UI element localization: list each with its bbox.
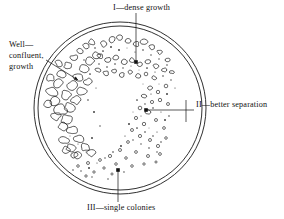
speckle: [162, 75, 164, 77]
colony: [144, 72, 148, 76]
colony: [167, 103, 170, 106]
colony: [128, 70, 132, 74]
colony: [54, 79, 63, 88]
speckle: [159, 84, 160, 85]
label-well-confluent-growth: Well— confluent, growth: [9, 39, 73, 72]
speckle: [150, 54, 151, 55]
speckle: [146, 67, 148, 69]
colony: [119, 73, 124, 78]
colony: [67, 81, 78, 91]
colony: [93, 52, 101, 59]
speckle: [118, 49, 120, 51]
speckle: [83, 59, 84, 60]
colony: [109, 37, 115, 43]
colony: [112, 69, 117, 73]
speckle: [80, 170, 81, 171]
speckle: [158, 58, 159, 59]
colony: [152, 76, 157, 80]
colony: [157, 50, 162, 54]
speckle: [112, 151, 114, 153]
speckle: [95, 87, 96, 88]
colony: [148, 86, 153, 90]
colony: [125, 157, 128, 160]
speckle: [140, 115, 141, 116]
colony: [165, 58, 170, 61]
colony: [71, 96, 81, 105]
colony: [153, 64, 159, 69]
label-well-line-3: growth: [9, 61, 73, 72]
colony: [64, 103, 75, 113]
colony: [81, 143, 89, 150]
colony: [113, 55, 119, 60]
colony: [156, 144, 159, 147]
speckle: [132, 139, 133, 140]
speckle: [144, 103, 145, 104]
speckle: [144, 131, 146, 133]
speckle: [70, 136, 71, 137]
speckle: [149, 128, 150, 129]
colony: [136, 74, 141, 78]
speckle: [77, 143, 78, 144]
speckle: [123, 171, 124, 172]
colony: [83, 43, 89, 48]
colony: [142, 122, 145, 125]
colony: [163, 127, 166, 130]
speckle: [134, 51, 135, 52]
speckle: [131, 66, 132, 67]
colony: [149, 139, 152, 142]
speckle: [114, 63, 116, 65]
speckle: [166, 93, 168, 95]
colony: [141, 94, 146, 98]
colony: [147, 155, 150, 158]
speckle: [136, 99, 138, 101]
label-region-III: III—single colonies: [87, 203, 155, 213]
speckle: [148, 147, 150, 149]
speckle: [136, 127, 138, 129]
colony: [169, 71, 174, 74]
speckle: [150, 93, 151, 94]
speckle: [120, 145, 122, 147]
colony: [59, 137, 70, 144]
colony: [162, 68, 167, 72]
colony: [87, 162, 90, 165]
colony: [47, 74, 54, 81]
speckle: [166, 64, 167, 65]
label-region-I-text: I—dense growth: [113, 3, 170, 12]
label-region-III-text: III—single colonies: [87, 203, 155, 212]
colony: [99, 159, 102, 162]
speckle: [133, 112, 134, 113]
speckle: [156, 151, 157, 152]
colony: [134, 116, 137, 119]
colony: [101, 41, 107, 47]
speckle: [122, 67, 123, 68]
speckle: [96, 162, 97, 163]
speckle: [104, 157, 105, 158]
colony: [77, 48, 83, 53]
speckle: [124, 135, 125, 136]
colony: [85, 175, 87, 177]
speckle: [110, 46, 112, 48]
colony: [156, 90, 159, 93]
colony: [127, 141, 130, 144]
label-region-I: I—dense growth: [113, 3, 170, 13]
speckle: [142, 49, 144, 51]
label-region-II-text: II—better separation: [196, 100, 267, 109]
colony: [149, 45, 154, 50]
speckle: [143, 84, 144, 85]
label-well-line-2: confluent,: [9, 50, 73, 61]
colony: [138, 106, 142, 110]
colony: [73, 135, 83, 142]
speckle: [102, 50, 104, 52]
speckle: [156, 131, 157, 132]
colony: [97, 54, 103, 59]
colony: [86, 57, 95, 65]
colony: [131, 129, 134, 132]
speckle: [106, 66, 108, 68]
colony: [129, 58, 134, 63]
colony: [83, 78, 92, 85]
colony: [150, 100, 153, 103]
arrowhead-well-confluent: [74, 77, 78, 81]
colony: [79, 65, 89, 73]
colony: [140, 39, 148, 44]
label-well-line-1: Well—: [9, 39, 73, 50]
